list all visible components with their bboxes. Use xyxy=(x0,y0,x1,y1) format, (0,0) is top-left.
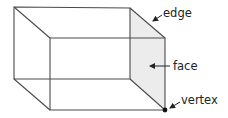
vertex-arrow xyxy=(170,102,180,108)
edge-top-left xyxy=(14,7,50,38)
back-face-outline xyxy=(14,7,130,79)
vertex-label: vertex xyxy=(181,93,218,107)
edge-label: edge xyxy=(163,6,192,20)
edge-arrow xyxy=(153,15,162,21)
face-label: face xyxy=(173,59,198,73)
cuboid-diagram: edge face vertex xyxy=(0,0,228,118)
edge-bottom-left xyxy=(14,79,50,110)
vertex-dot xyxy=(163,108,168,113)
